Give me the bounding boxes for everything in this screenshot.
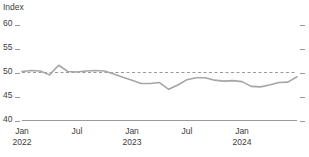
x-tick-year: 2022 <box>13 137 32 148</box>
x-tick-month: Jan <box>15 126 29 136</box>
x-tick-label: Jan2024 <box>233 126 252 147</box>
y-tick-mark-left <box>15 25 20 26</box>
y-tick-label: 50 <box>3 67 20 76</box>
x-tick-month: Jul <box>182 126 193 136</box>
y-tick-mark-left <box>15 121 20 122</box>
x-tick-year: 2024 <box>233 137 252 148</box>
y-tick-mark-left <box>15 49 20 50</box>
y-tick-label: 55 <box>3 43 20 52</box>
x-tick-label: Jul <box>72 126 83 137</box>
y-tick-label: 60 <box>3 19 20 28</box>
x-tick-year: 2023 <box>123 137 142 148</box>
y-tick-mark-right <box>300 121 305 122</box>
y-tick-mark-right <box>300 73 305 74</box>
y-tick-label: 45 <box>3 91 20 100</box>
y-tick-mark-right <box>300 97 305 98</box>
y-tick-mark-left <box>15 73 20 74</box>
y-tick-mark-right <box>300 49 305 50</box>
y-tick-mark-left <box>15 97 20 98</box>
y-tick-label: 40 <box>3 115 20 124</box>
x-tick-month: Jan <box>235 126 249 136</box>
x-tick-label: Jan2023 <box>123 126 142 147</box>
x-tick-month: Jul <box>72 126 83 136</box>
data-series-line <box>22 65 297 89</box>
x-tick-label: Jan2022 <box>13 126 32 147</box>
x-tick-label: Jul <box>182 126 193 137</box>
index-line-chart: Index 4045505560 Jan2022JulJan2023JulJan… <box>0 0 309 157</box>
x-tick-month: Jan <box>125 126 139 136</box>
y-tick-mark-right <box>300 25 305 26</box>
chart-plot-area <box>0 0 309 157</box>
